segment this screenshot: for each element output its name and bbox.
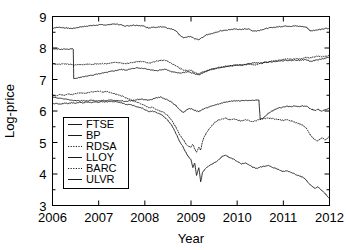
y-axis-label: Log-price	[2, 84, 17, 138]
x-tick-label: 2011	[269, 210, 297, 225]
x-tick-label: 2009	[177, 210, 206, 225]
legend-label-ulvr: ULVR	[86, 173, 115, 185]
chart-legend: FTSEBPRDSALLOYBARCULVR	[64, 118, 129, 189]
x-tick-label: 2010	[223, 210, 252, 225]
y-tick-label: 7	[39, 73, 46, 88]
y-tick-label: 5	[39, 136, 46, 151]
x-axis-label: Year	[178, 231, 205, 246]
x-tick-label: 2012	[315, 210, 344, 225]
chart-figure: 3456789 2006200720082009201020112012 Yea…	[0, 0, 346, 250]
x-tick-label: 2006	[38, 210, 67, 225]
y-tick-label: 4	[39, 167, 46, 182]
y-tick-label: 6	[39, 104, 46, 119]
x-tick-label: 2007	[84, 210, 113, 225]
log-price-line-chart: 3456789 2006200720082009201020112012 Yea…	[0, 0, 346, 250]
y-tick-label: 8	[39, 41, 46, 56]
y-tick-label: 9	[39, 10, 46, 25]
x-tick-label: 2008	[130, 210, 159, 225]
